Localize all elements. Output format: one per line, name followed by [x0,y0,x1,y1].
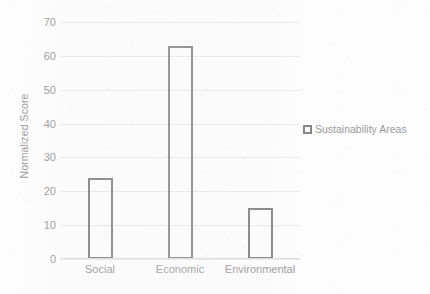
legend-label: Sustainability Areas [315,123,407,135]
gridline [60,22,300,23]
y-axis-tick-labels: 010203040506070 [22,0,56,294]
y-axis-tick-label: 50 [22,84,56,95]
x-axis-line [60,258,300,259]
plot-area [60,22,300,259]
y-axis-tick-label: 30 [22,152,56,163]
y-axis-tick-label: 10 [22,220,56,231]
y-axis-tick-label: 70 [22,17,56,28]
x-axis-tick-labels: SocialEconomicEnvironmental [60,263,300,283]
y-axis-tick-label: 40 [22,118,56,129]
gridline [60,259,300,260]
bar [168,46,193,259]
bar [88,178,113,259]
x-axis-tick-label: Economic [156,263,204,275]
y-axis-tick-label: 0 [22,254,56,265]
bar-chart: Normalized Score 010203040506070 SocialE… [0,0,430,294]
x-axis-tick-label: Environmental [225,263,295,275]
chart-legend: Sustainability Areas [303,123,407,135]
bar [248,208,273,259]
legend-swatch-icon [303,125,312,134]
y-axis-tick-label: 20 [22,186,56,197]
x-axis-tick-label: Social [85,263,115,275]
y-axis-tick-label: 60 [22,50,56,61]
